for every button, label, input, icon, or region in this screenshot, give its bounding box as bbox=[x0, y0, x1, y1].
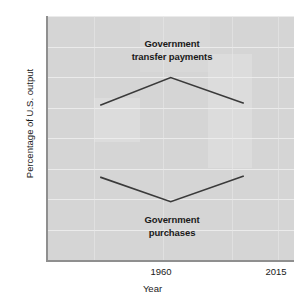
y-axis-title: Percentage of U.S. output bbox=[24, 34, 35, 214]
annotation-purchases-line2: purchases bbox=[110, 227, 234, 240]
annotation-transfer-line2: transfer payments bbox=[110, 51, 234, 64]
chart-figure: 40 35 30 25 20 15 10 5 0 Percentage of U… bbox=[0, 0, 305, 299]
plot-area: Government transfer payments Government … bbox=[46, 16, 294, 262]
annotation-government-purchases: Government purchases bbox=[110, 214, 234, 239]
x-tick-label-1960: 1960 bbox=[131, 266, 191, 277]
annotation-purchases-line1: Government bbox=[110, 214, 234, 227]
annotation-transfer-line1: Government bbox=[110, 38, 234, 51]
annotation-government-transfer-payments: Government transfer payments bbox=[110, 38, 234, 63]
x-tick-label-2015: 2015 bbox=[246, 266, 305, 277]
x-axis-title: Year bbox=[0, 283, 305, 294]
line-government-purchases bbox=[100, 176, 244, 202]
line-government-transfer-payments bbox=[100, 78, 244, 106]
